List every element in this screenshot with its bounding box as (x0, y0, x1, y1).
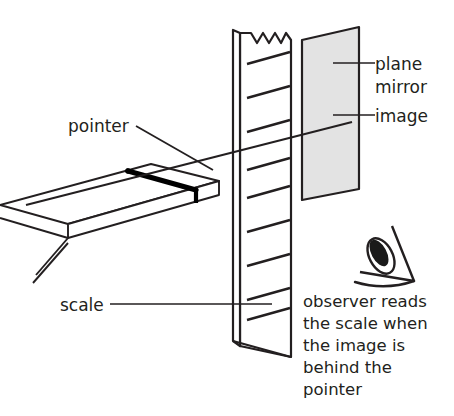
diagram-canvas: plane mirror image pointer scale observe… (0, 0, 454, 416)
label-pointer: pointer (68, 116, 129, 136)
observer-caption: observer reads the scale when the image … (303, 292, 428, 399)
plane-mirror-shape (302, 27, 359, 200)
label-plane-mirror-line1: plane (375, 54, 422, 74)
eye-icon (355, 226, 414, 286)
plane-mirror-face (302, 27, 359, 200)
scale-front-face (240, 33, 291, 357)
caption-line-4: behind the (303, 358, 392, 377)
label-image: image (375, 106, 428, 126)
plate-lower-edge-b (36, 238, 68, 275)
scale-ruler (233, 30, 291, 357)
eye-lower-lid (355, 281, 414, 286)
caption-line-2: the scale when (303, 314, 428, 333)
scale-side-face (233, 30, 240, 346)
label-plane-mirror-line2: mirror (375, 77, 427, 97)
label-scale: scale (60, 295, 104, 315)
caption-line-5: pointer (303, 380, 362, 399)
leader-pointer (136, 126, 213, 170)
caption-line-3: the image is (303, 336, 405, 355)
plate-lower-edge-c (33, 243, 68, 283)
caption-line-1: observer reads (303, 292, 427, 311)
pointer-tip-dot (125, 168, 131, 174)
optics-diagram-svg: plane mirror image pointer scale observe… (0, 0, 454, 416)
pointer-plate (0, 164, 219, 283)
